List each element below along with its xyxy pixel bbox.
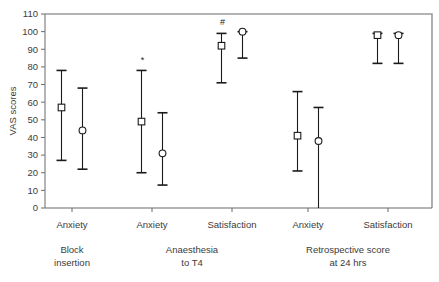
data-point-square-1 [137, 70, 147, 172]
y-tick-label: 10 [27, 185, 38, 196]
significance-annotation: * [141, 55, 145, 65]
y-tick-label: 30 [27, 149, 38, 160]
y-axis-title: VAS scores [7, 86, 18, 135]
data-point-square-2 [217, 33, 227, 82]
y-tick-label: 60 [27, 97, 38, 108]
data-point-circle-1 [158, 113, 168, 185]
x-tick-group [72, 208, 388, 212]
marker-circle [239, 28, 246, 35]
y-tick-label: 0 [33, 202, 38, 213]
data-point-square-0 [57, 70, 67, 160]
marker-square [374, 32, 381, 39]
marker-circle [315, 138, 322, 145]
chart-svg: 0102030405060708090100110 VAS scores *# … [0, 0, 439, 282]
category-label-group: AnxietyAnxietySatisfactionAnxietySatisfa… [56, 219, 412, 230]
category-label-2: Satisfaction [207, 219, 256, 230]
group-label-2-line2: at 24 hrs [330, 257, 367, 268]
data-point-circle-2 [238, 28, 248, 58]
plot-frame [45, 14, 432, 208]
y-tick-label: 50 [27, 114, 38, 125]
category-label-1: Anxiety [136, 219, 167, 230]
y-tick-label: 20 [27, 167, 38, 178]
y-tick-label: 110 [23, 8, 38, 19]
data-point-square-3 [293, 92, 303, 171]
data-point-square-4 [373, 32, 383, 64]
group-label-0-line1: Block [60, 244, 83, 255]
marker-circle [395, 32, 402, 39]
group-label-0-line2: insertion [54, 257, 90, 268]
marker-square [218, 42, 225, 49]
vas-scores-chart: 0102030405060708090100110 VAS scores *# … [0, 0, 439, 282]
group-label-group: BlockinsertionAnaesthesiato T4Retrospect… [54, 244, 390, 268]
y-tick-label: 90 [27, 44, 38, 55]
significance-annotation: # [220, 17, 225, 27]
group-label-2-line1: Retrospective score [306, 244, 390, 255]
y-tick-group: 0102030405060708090100110 [22, 8, 45, 213]
y-tick-label: 80 [27, 61, 38, 72]
category-label-3: Anxiety [292, 219, 323, 230]
y-tick-label: 40 [27, 132, 38, 143]
data-series-layer [57, 28, 404, 208]
marker-circle [79, 127, 86, 134]
group-label-1-line1: Anaesthesia [166, 244, 219, 255]
data-point-circle-3 [314, 107, 324, 208]
annotation-layer: *# [141, 17, 225, 66]
data-point-circle-0 [78, 88, 88, 169]
marker-square [58, 104, 65, 111]
y-tick-label: 70 [27, 79, 38, 90]
y-tick-label: 100 [22, 26, 38, 37]
category-label-4: Satisfaction [363, 219, 412, 230]
data-point-circle-4 [394, 32, 404, 64]
marker-square [294, 132, 301, 139]
category-label-0: Anxiety [56, 219, 87, 230]
marker-circle [159, 150, 166, 157]
marker-square [138, 118, 145, 125]
group-label-1-line2: to T4 [181, 257, 202, 268]
